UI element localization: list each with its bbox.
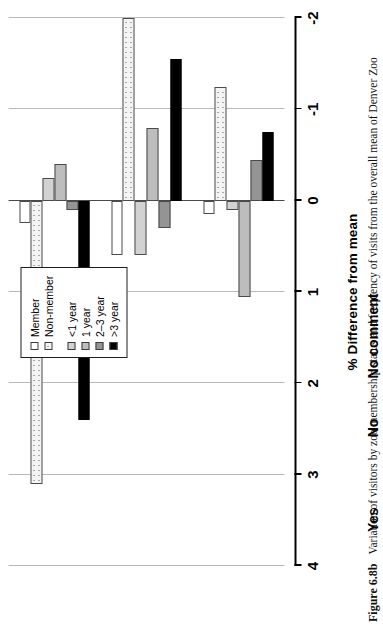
bar-no-comment-member [203,201,215,215]
gray-square-swatch [81,342,89,350]
white-square-swatch [30,342,38,350]
light-gray-square-swatch [67,342,75,350]
gridline [8,474,284,475]
bar-no-comment-y23 [250,160,262,201]
gridline [8,382,284,383]
axis-tick-label: 2 [303,379,320,387]
bar-no-comment-lt1 [226,201,238,210]
legend-label: 1 year [80,308,91,337]
gridline [8,17,284,18]
bar-yes-lt1 [42,178,54,201]
gridline [8,565,284,566]
legend-label: Member [29,298,40,337]
dark-gray-square-swatch [95,342,103,350]
figure-caption-text: Variation of visitors by zoo membership … [366,57,378,554]
legend-group: <1 year1 year2–3 year>3 year [64,276,120,350]
axis-tick [294,108,301,110]
legend-item-lt1: <1 year [64,276,78,350]
legend-item-gt3: >3 year [106,276,120,350]
black-square-swatch [109,342,117,350]
bar-no-lt1 [134,201,146,256]
axis-tick-label: 3 [303,471,320,479]
bar-no-comment-y1 [238,201,250,297]
bar-no-y1 [146,128,158,201]
gridline [8,108,284,109]
legend-item-y23: 2–3 year [92,276,106,350]
axis-tick-label: 0 [303,197,320,205]
legend-label: Non-member [43,276,54,337]
axis-tick [294,382,301,384]
bar-no-nonmember [122,18,134,201]
value-axis-line [294,18,296,566]
legend-item-member: Member [27,276,41,350]
figure: 43210-1-2 % Difference from mean YesNoNo… [0,0,383,628]
figure-caption: Figure 6.8bVariation of visitors by zoo … [366,6,379,622]
axis-tick-label: -1 [303,103,320,116]
legend-label: >3 year [108,302,119,337]
figure-number: Figure 6.8b [365,564,379,622]
legend-spacer [55,276,64,350]
dotted-square-swatch [44,342,52,350]
axis-tick [294,565,301,567]
bar-no-gt3 [170,59,182,201]
axis-tick [294,17,301,19]
chart-legend: MemberNon-member<1 year1 year2–3 year>3 … [20,267,127,358]
bar-yes-y1 [54,164,66,201]
legend-group: MemberNon-member [27,276,55,350]
bar-no-comment-nonmember [214,87,226,201]
axis-tick [294,291,301,293]
value-axis-title: % Difference from mean [344,18,359,566]
legend-item-y1: 1 year [78,276,92,350]
axis-tick [294,473,301,475]
legend-item-nonmember: Non-member [41,276,55,350]
axis-tick-label: -2 [303,11,320,24]
axis-tick-label: 4 [303,562,320,570]
axis-tick-label: 1 [303,288,320,296]
bar-no-comment-gt3 [262,132,274,201]
legend-label: 2–3 year [94,296,105,337]
bar-yes-member [19,201,31,224]
figure-rotator: 43210-1-2 % Difference from mean YesNoNo… [0,0,383,628]
axis-tick [294,199,301,201]
bar-no-member [111,201,123,256]
bar-yes-y23 [66,201,78,210]
legend-label: <1 year [66,302,77,337]
bar-no-y23 [158,201,170,228]
